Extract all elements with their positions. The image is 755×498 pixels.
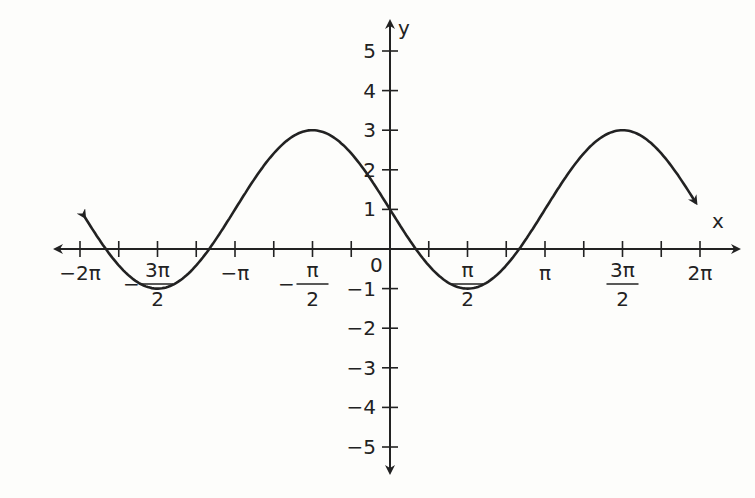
- svg-text:3π: 3π: [610, 258, 635, 282]
- x-tick-label: 2π: [688, 261, 713, 285]
- svg-text:2: 2: [151, 287, 164, 311]
- svg-text:2: 2: [306, 287, 319, 311]
- x-tick-label: π: [539, 261, 551, 285]
- y-tick-label: 3: [363, 118, 376, 142]
- x-tick-label: 3π2: [607, 258, 639, 311]
- svg-text:−: −: [123, 272, 140, 296]
- svg-text:π: π: [461, 258, 473, 282]
- function-graph: −2π3π2−−ππ2−π2π3π22π54321−1−2−3−4−5 x y …: [0, 0, 755, 498]
- y-tick-label: 5: [363, 39, 376, 63]
- x-tick-label: −π: [221, 261, 250, 285]
- x-tick-label: −2π: [59, 261, 101, 285]
- x-axis-label: x: [712, 209, 724, 233]
- x-tick-label: π2: [452, 258, 484, 311]
- svg-text:2: 2: [616, 287, 629, 311]
- svg-text:2: 2: [461, 287, 474, 311]
- y-tick-label: −4: [347, 395, 376, 419]
- x-tick-label: 3π2−: [123, 258, 173, 311]
- svg-text:3π: 3π: [145, 258, 170, 282]
- y-axis-label: y: [398, 16, 410, 40]
- y-tick-label: 1: [363, 197, 376, 221]
- axes: [56, 22, 738, 472]
- svg-text:−: −: [278, 272, 295, 296]
- y-tick-label: −3: [347, 356, 376, 380]
- y-tick-label: 4: [363, 79, 376, 103]
- svg-text:π: π: [306, 258, 318, 282]
- y-tick-label: −2: [347, 316, 376, 340]
- y-tick-label: −5: [347, 435, 376, 459]
- x-tick-label: π2−: [278, 258, 328, 311]
- origin-label: 0: [370, 253, 383, 277]
- y-tick-label: −1: [347, 277, 376, 301]
